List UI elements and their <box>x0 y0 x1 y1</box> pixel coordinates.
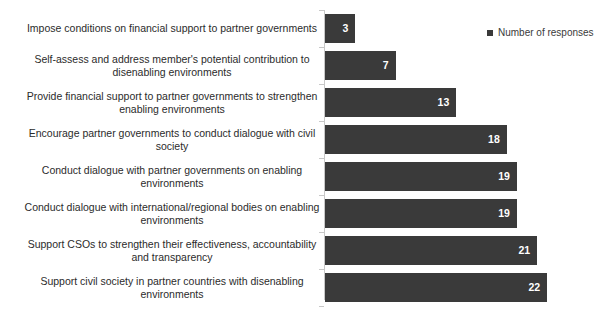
bar-value-label: 18 <box>488 134 500 145</box>
bar-fill: 18 <box>325 125 507 154</box>
bar-value-label: 21 <box>518 245 530 256</box>
category-label: Impose conditions on financial support t… <box>22 22 322 35</box>
bar-fill: 21 <box>325 236 537 265</box>
axis-tick <box>319 269 324 270</box>
bar: 19 <box>325 199 517 228</box>
bar-row: Self-assess and address member's potenti… <box>0 47 616 84</box>
category-label: Support CSOs to strengthen their effecti… <box>22 238 322 263</box>
bar: 18 <box>325 125 507 154</box>
axis-tick <box>319 195 324 196</box>
axis-tick <box>319 306 324 307</box>
bar-fill: 19 <box>325 162 517 191</box>
axis-tick <box>319 84 324 85</box>
bar: 21 <box>325 236 537 265</box>
category-label: Conduct dialogue with partner government… <box>22 164 322 189</box>
bar-row: Conduct dialogue with partner government… <box>0 158 616 195</box>
bar-chart: Number of responses Impose conditions on… <box>0 0 616 312</box>
bar-value-label: 19 <box>498 171 510 182</box>
bar-row: Impose conditions on financial support t… <box>0 10 616 47</box>
axis-tick <box>319 158 324 159</box>
category-label: Support civil society in partner countri… <box>22 275 322 300</box>
bar: 19 <box>325 162 517 191</box>
bar-fill: 19 <box>325 199 517 228</box>
bar-rows: Impose conditions on financial support t… <box>0 10 616 306</box>
category-label: Self-assess and address member's potenti… <box>22 53 322 78</box>
category-label: Provide financial support to partner gov… <box>22 90 322 115</box>
bar-row: Support civil society in partner countri… <box>0 269 616 306</box>
bar-row: Provide financial support to partner gov… <box>0 84 616 121</box>
bar-row: Encourage partner governments to conduct… <box>0 121 616 158</box>
plot-area: Impose conditions on financial support t… <box>0 6 616 306</box>
bar-fill: 3 <box>325 14 355 43</box>
axis-tick <box>319 121 324 122</box>
bar-row: Support CSOs to strengthen their effecti… <box>0 232 616 269</box>
bar-value-label: 19 <box>498 208 510 219</box>
axis-tick <box>319 10 324 11</box>
category-label: Conduct dialogue with international/regi… <box>22 201 322 226</box>
axis-tick <box>319 47 324 48</box>
bar: 13 <box>325 88 456 117</box>
bar: 3 <box>325 14 355 43</box>
bar-value-label: 13 <box>438 97 450 108</box>
bar-value-label: 7 <box>383 60 389 71</box>
bar-value-label: 3 <box>342 23 348 34</box>
bar-fill: 22 <box>325 273 547 302</box>
bar-value-label: 22 <box>529 282 541 293</box>
bar-fill: 13 <box>325 88 456 117</box>
axis-tick <box>319 232 324 233</box>
bar-row: Conduct dialogue with international/regi… <box>0 195 616 232</box>
category-label: Encourage partner governments to conduct… <box>22 127 322 152</box>
bar-fill: 7 <box>325 51 396 80</box>
bar: 22 <box>325 273 547 302</box>
bar: 7 <box>325 51 396 80</box>
